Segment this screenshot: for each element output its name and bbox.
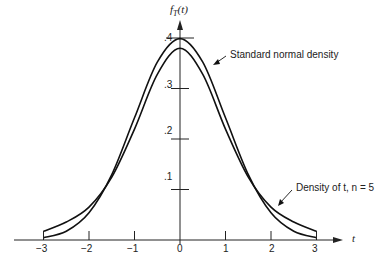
- x-tick-label: 0: [177, 243, 183, 254]
- x-axis-title: t: [352, 232, 355, 244]
- y-tick-label: .2: [164, 125, 172, 136]
- y-axis-title: fT(t): [170, 3, 188, 18]
- y-tick-label: .1: [164, 171, 172, 182]
- annotation-t-density: Density of t, n = 5: [296, 182, 374, 193]
- y-tick-label: .4: [164, 32, 172, 43]
- y-tick-label: .3: [164, 79, 172, 90]
- x-tick-label: −1: [127, 243, 138, 254]
- x-tick-label: −3: [36, 243, 47, 254]
- x-tick-label: 2: [269, 243, 275, 254]
- x-tick-label: −2: [81, 243, 92, 254]
- normal-annotation-arrowhead-icon: [213, 59, 220, 65]
- annotation-standard-normal: Standard normal density: [230, 49, 338, 60]
- x-tick-label: 3: [312, 243, 318, 254]
- y-axis-arrow-icon: [177, 20, 183, 30]
- y-axis-title-arg: (t): [178, 3, 188, 15]
- x-tick-label: 1: [223, 243, 229, 254]
- x-axis-arrow-icon: [333, 237, 343, 243]
